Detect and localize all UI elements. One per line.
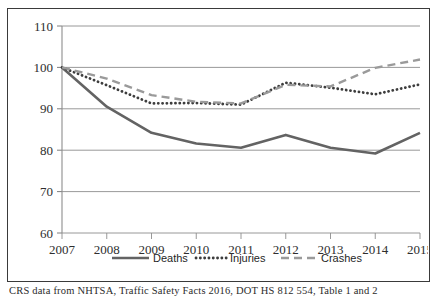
chart-plot-frame: 6070809010011020072008200920102011201220… bbox=[7, 8, 430, 282]
figure-caption: CRS data from NHTSA, Traffic Safety Fact… bbox=[9, 285, 437, 296]
x-axis-tick-label: 2007 bbox=[49, 242, 76, 257]
x-axis-tick-label: 2012 bbox=[273, 242, 299, 257]
y-axis-tick-label: 60 bbox=[40, 226, 53, 241]
series-line-deaths bbox=[62, 67, 420, 153]
chart-figure: 6070809010011020072008200920102011201220… bbox=[0, 0, 437, 297]
legend-label-deaths: Deaths bbox=[153, 252, 188, 264]
y-axis-tick-label: 110 bbox=[34, 19, 53, 34]
legend-label-crashes: Crashes bbox=[321, 252, 362, 264]
x-axis-tick-label: 2014 bbox=[362, 242, 389, 257]
line-chart-svg: 6070809010011020072008200920102011201220… bbox=[8, 9, 428, 280]
y-axis-tick-label: 90 bbox=[40, 101, 53, 116]
series-line-crashes bbox=[62, 60, 420, 104]
x-axis-tick-label: 2008 bbox=[94, 242, 120, 257]
x-axis-tick-label: 2015 bbox=[407, 242, 428, 257]
series-line-injuries bbox=[62, 67, 420, 104]
y-axis-tick-label: 100 bbox=[34, 60, 54, 75]
y-axis-tick-label: 80 bbox=[40, 143, 53, 158]
y-axis-tick-label: 70 bbox=[40, 184, 53, 199]
legend-label-injuries: Injuries bbox=[230, 252, 266, 264]
